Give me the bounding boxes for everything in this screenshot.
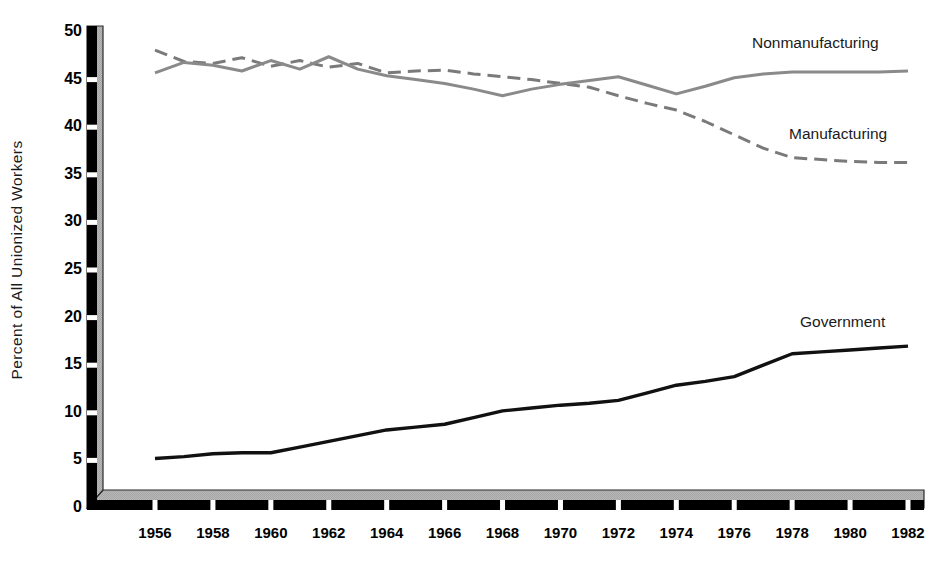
x-tick-mark xyxy=(442,500,447,510)
x-tick-label: 1982 xyxy=(876,524,940,541)
x-tick-label: 1970 xyxy=(528,524,592,541)
x-tick-label: 1976 xyxy=(702,524,766,541)
y-tick-label: 10 xyxy=(40,403,82,421)
y-tick-label: 15 xyxy=(40,355,82,373)
x-tick-label: 1958 xyxy=(181,524,245,541)
y-tick-mark xyxy=(87,315,97,320)
x-tick-label: 1974 xyxy=(644,524,708,541)
x-tick-mark xyxy=(848,500,853,510)
y-tick-label: 30 xyxy=(40,212,82,230)
y-tick-label: 25 xyxy=(40,260,82,278)
x-tick-mark xyxy=(732,500,737,510)
x-tick-label: 1968 xyxy=(471,524,535,541)
y-tick-label: 40 xyxy=(40,117,82,135)
x-tick-mark xyxy=(268,500,273,510)
y-tick-mark xyxy=(87,77,97,82)
x-axis-bar xyxy=(87,500,924,510)
nonmanufacturing-label: Nonmanufacturing xyxy=(752,34,879,52)
x-tick-label: 1960 xyxy=(239,524,303,541)
x-tick-mark xyxy=(153,500,158,510)
x-tick-mark xyxy=(326,500,331,510)
chart-figure: Percent of All Unionized Workers 0510152 xyxy=(0,0,943,571)
x-tick-mark xyxy=(384,500,389,510)
x-tick-mark xyxy=(674,500,679,510)
y-tick-mark xyxy=(87,458,97,463)
x-tick-label: 1966 xyxy=(413,524,477,541)
y-tick-mark xyxy=(87,268,97,273)
y-tick-label: 45 xyxy=(40,70,82,88)
series-layer xyxy=(155,50,908,458)
x-tick-label: 1956 xyxy=(123,524,187,541)
government-label: Government xyxy=(800,313,885,331)
x-tick-label: 1962 xyxy=(297,524,361,541)
x-tick-mark xyxy=(906,500,911,510)
y-tick-label: 35 xyxy=(40,165,82,183)
y-tick-label: 5 xyxy=(40,450,82,468)
y-tick-mark xyxy=(87,125,97,130)
y-axis-bar xyxy=(87,26,97,508)
x-tick-mark xyxy=(790,500,795,510)
y-tick-label: 20 xyxy=(40,308,82,326)
x-tick-label: 1980 xyxy=(818,524,882,541)
x-tick-label: 1964 xyxy=(355,524,419,541)
y-tick-mark xyxy=(87,363,97,368)
y-tick-mark xyxy=(87,220,97,225)
x-tick-mark xyxy=(616,500,621,510)
y-tick-mark xyxy=(87,172,97,177)
series-line-government xyxy=(155,346,908,458)
y-tick-mark xyxy=(87,410,97,415)
y-tick-label: 50 xyxy=(40,22,82,40)
series-line-manufacturing xyxy=(155,50,908,162)
x-tick-label: 1978 xyxy=(760,524,824,541)
x-tick-mark xyxy=(558,500,563,510)
x-tick-label: 1972 xyxy=(586,524,650,541)
x-tick-mark xyxy=(210,500,215,510)
chart-plot-area xyxy=(0,0,943,571)
y-tick-label: 0 xyxy=(40,498,82,516)
manufacturing-label: Manufacturing xyxy=(789,125,887,143)
series-line-nonmanufacturing xyxy=(155,57,908,96)
x-tick-mark xyxy=(500,500,505,510)
